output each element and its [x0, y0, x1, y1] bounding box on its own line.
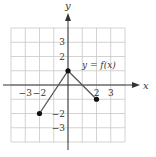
- function-label: y = f(x): [81, 60, 116, 70]
- data-point: [65, 68, 70, 73]
- function-graph: x y −3−22332−2−3 y = f(x): [0, 0, 156, 157]
- y-tick-label: −3: [52, 123, 66, 133]
- y-axis-label: y: [64, 0, 71, 11]
- x-tick-label: −3: [19, 88, 33, 98]
- y-tick-label: 3: [59, 37, 65, 47]
- x-axis-arrow-icon: [132, 82, 140, 88]
- y-tick-label: 2: [59, 52, 65, 62]
- x-axis-label: x: [143, 80, 149, 91]
- y-axis-arrow-icon: [65, 13, 71, 21]
- x-tick-label: 3: [108, 88, 114, 98]
- data-point: [37, 111, 42, 116]
- data-point: [94, 97, 99, 102]
- x-tick-label: −2: [33, 88, 46, 98]
- y-tick-label: −2: [52, 109, 65, 119]
